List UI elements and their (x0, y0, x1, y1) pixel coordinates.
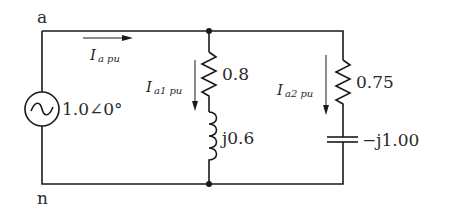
ac-source-icon (25, 92, 59, 126)
inductor-value: j0.6 (220, 128, 254, 148)
resistor-0-8-icon (202, 52, 216, 112)
current-arrow-ia2 (323, 55, 329, 115)
node-label-n: n (37, 188, 48, 208)
current-arrow-ia (83, 35, 133, 41)
current-arrow-ia1 (192, 60, 198, 111)
current-label-ia: Ia pu (89, 46, 120, 64)
current-label-ia2: Ia2 pu (276, 81, 313, 99)
capacitor-icon (327, 137, 358, 142)
capacitor-value: −j1.00 (362, 130, 419, 150)
inductor-j0-6-icon (209, 112, 217, 184)
wire-left-lower (42, 126, 343, 184)
current-label-ia1: Ia1 pu (145, 78, 182, 96)
wire-top (42, 31, 343, 60)
node-label-a: a (37, 7, 47, 27)
source-label: 1.0∠0° (62, 99, 123, 119)
circuit-diagram: a n 1.0∠0° Ia pu Ia1 pu Ia2 pu 0.8 j0.6 … (0, 0, 451, 215)
resistor1-value: 0.8 (222, 64, 249, 84)
resistor2-value: 0.75 (356, 72, 394, 92)
resistor-0-75-icon (336, 60, 350, 137)
